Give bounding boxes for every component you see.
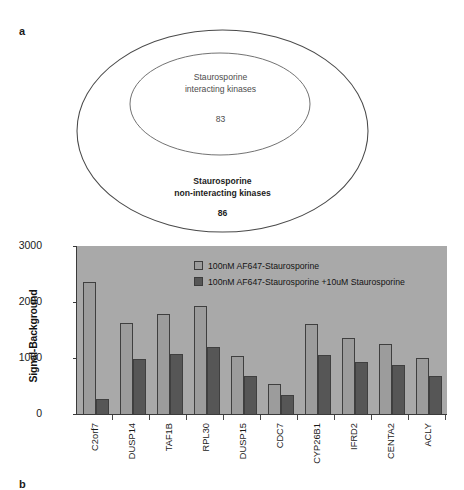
x-axis-category-labels: C2orf7DUSP14TAF1BRPL30DUSP15CDC7CYP26B1I…	[76, 420, 446, 482]
x-label-slot: CDC7	[261, 420, 298, 482]
inner-ellipse-interacting	[130, 53, 310, 155]
x-category-label: IFRD2	[349, 423, 359, 450]
inner-set-caption-line1: Staurosporine	[194, 72, 248, 82]
bar-group	[151, 246, 188, 414]
bar	[305, 324, 318, 414]
x-category-label: TAF1B	[164, 423, 174, 451]
panel-b-bar-chart: b Signal-Background 0100020003000 100nM …	[0, 238, 464, 484]
x-label-slot: TAF1B	[150, 420, 187, 482]
panel-label-b: b	[19, 478, 26, 490]
bar	[342, 338, 355, 414]
bar-group	[77, 246, 114, 414]
bar	[194, 306, 207, 414]
y-tick-mark	[73, 358, 77, 359]
x-label-slot: DUSP15	[224, 420, 261, 482]
bar	[281, 395, 294, 414]
bar	[231, 356, 244, 414]
bar	[120, 323, 133, 414]
y-tick-label: 2000	[8, 295, 42, 307]
outer-set-count: 86	[140, 208, 305, 220]
chart-legend: 100nM AF647-Staurosporine100nM AF647-Sta…	[194, 260, 405, 292]
y-tick-label: 0	[8, 407, 42, 419]
bar	[157, 314, 170, 414]
x-category-label: RPL30	[201, 423, 211, 451]
x-category-label: DUSP14	[127, 423, 137, 459]
x-label-slot: RPL30	[187, 420, 224, 482]
x-category-label: CENTA2	[386, 423, 396, 459]
x-label-slot: DUSP14	[113, 420, 150, 482]
bar	[268, 384, 281, 414]
bar	[392, 365, 405, 414]
inner-set-count: 83	[148, 114, 293, 126]
y-tick-label: 3000	[8, 239, 42, 251]
legend-item: 100nM AF647-Staurosporine	[194, 260, 405, 271]
x-label-slot: ACLY	[409, 420, 446, 482]
legend-label: 100nM AF647-Staurosporine +10uM Staurosp…	[208, 277, 405, 287]
panel-a-venn-diagram: a Staurosporine interacting kinases 83 S…	[0, 0, 464, 238]
bar	[96, 399, 109, 414]
bar	[244, 376, 257, 414]
y-tick-mark	[73, 302, 77, 303]
bar-group	[114, 246, 151, 414]
x-category-label: CDC7	[275, 423, 285, 448]
bar	[429, 376, 442, 414]
legend-swatch	[194, 261, 203, 270]
outer-set-caption-line1: Staurosporine	[193, 176, 251, 186]
legend-label: 100nM AF647-Staurosporine	[208, 261, 319, 271]
x-label-slot: CYP26B1	[298, 420, 335, 482]
outer-set-caption: Staurosporine non-interacting kinases	[140, 176, 305, 199]
bar-group	[410, 246, 447, 414]
bar	[170, 354, 183, 414]
bar	[207, 347, 220, 414]
outer-ellipse-non-interacting	[77, 30, 368, 232]
plot-area: 100nM AF647-Staurosporine100nM AF647-Sta…	[76, 246, 447, 415]
inner-set-caption-line2: interacting kinases	[185, 84, 256, 94]
y-tick-label: 1000	[8, 351, 42, 363]
legend-item: 100nM AF647-Staurosporine +10uM Staurosp…	[194, 276, 405, 287]
y-tick-mark	[73, 246, 77, 247]
outer-set-caption-line2: non-interacting kinases	[174, 188, 270, 198]
x-category-label: DUSP15	[238, 423, 248, 459]
x-category-label: C2orf7	[90, 423, 100, 451]
bar	[83, 282, 96, 414]
inner-set-caption: Staurosporine interacting kinases	[148, 72, 293, 95]
bar	[318, 355, 331, 414]
legend-swatch	[194, 277, 203, 286]
x-category-label: CYP26B1	[312, 423, 322, 464]
bar	[355, 362, 368, 414]
x-label-slot: CENTA2	[372, 420, 409, 482]
x-label-slot: C2orf7	[76, 420, 113, 482]
x-category-label: ACLY	[423, 423, 433, 447]
bar	[133, 359, 146, 414]
y-axis-title: Signal-Background	[27, 256, 39, 416]
bar	[416, 358, 429, 414]
x-label-slot: IFRD2	[335, 420, 372, 482]
bar	[379, 344, 392, 414]
